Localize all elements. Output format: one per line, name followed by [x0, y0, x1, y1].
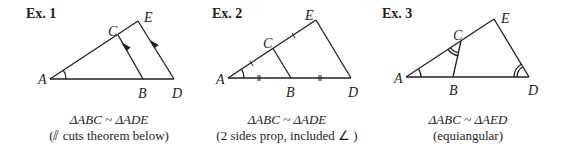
point-label-C: C [453, 28, 463, 43]
point-label-E: E [304, 8, 314, 23]
reason-text: (equiangular) [373, 128, 563, 144]
point-label-C: C [263, 36, 273, 51]
side-ED [138, 21, 174, 79]
side-ED [494, 19, 529, 77]
example-3-caption: ΔABC ~ ΔAED (equiangular) [373, 112, 563, 144]
side-ED [316, 20, 351, 78]
point-label-A: A [215, 72, 225, 87]
angle-arc-C [451, 48, 459, 53]
parallel-arrow-icon [123, 44, 130, 51]
angle-arc-A [419, 69, 422, 77]
parallel-arrow-icon [151, 41, 158, 48]
angle-arc-A [63, 70, 66, 79]
point-label-E: E [500, 11, 510, 26]
angle-arc-D [517, 67, 523, 77]
point-label-C: C [108, 24, 118, 39]
example-2-diagram [228, 20, 351, 81]
point-label-B: B [138, 86, 147, 101]
point-label-D: D [527, 83, 538, 98]
similarity-statement: ΔABC ~ ΔAED [429, 112, 508, 127]
side-CB [118, 35, 143, 79]
side-CB [453, 41, 461, 77]
point-label-A: A [393, 71, 403, 86]
reason-text: (⫽ cuts theorem below) [14, 128, 204, 144]
example-2-caption: ΔABC ~ ΔADE (2 sides prop, included ∠ ) [192, 112, 382, 144]
point-label-D: D [347, 85, 358, 100]
angle-arc-A [241, 69, 244, 78]
side-AE [406, 19, 494, 77]
point-label-B: B [286, 85, 295, 100]
point-label-D: D [171, 86, 182, 101]
point-label-B: B [449, 83, 458, 98]
point-label-A: A [37, 72, 47, 87]
point-label-E: E [143, 10, 153, 25]
side-CB [273, 49, 291, 79]
reason-text: (2 sides prop, included ∠ ) [192, 128, 382, 144]
similarity-statement: ΔABC ~ ΔADE [248, 112, 327, 127]
example-3-diagram [406, 19, 529, 77]
similarity-statement: ΔABC ~ ΔADE [70, 112, 149, 127]
example-1-caption: ΔABC ~ ΔADE (⫽ cuts theorem below) [14, 112, 204, 144]
